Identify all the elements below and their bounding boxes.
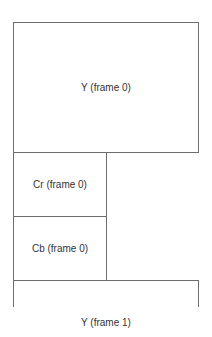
chroma-left-border xyxy=(13,152,14,307)
y-frame0-label: Y (frame 0) xyxy=(13,82,199,93)
cr-cb-divider xyxy=(13,216,107,217)
left-border xyxy=(13,22,14,137)
cr-frame0-label: Cr (frame 0) xyxy=(13,179,107,190)
y-frame0-top-border xyxy=(13,22,199,23)
y-frame1-right-border xyxy=(198,280,199,307)
y-frame1-top-border xyxy=(13,280,199,281)
y-frame1-label: Y (frame 1) xyxy=(13,317,199,328)
cb-frame0-label: Cb (frame 0) xyxy=(13,243,107,254)
